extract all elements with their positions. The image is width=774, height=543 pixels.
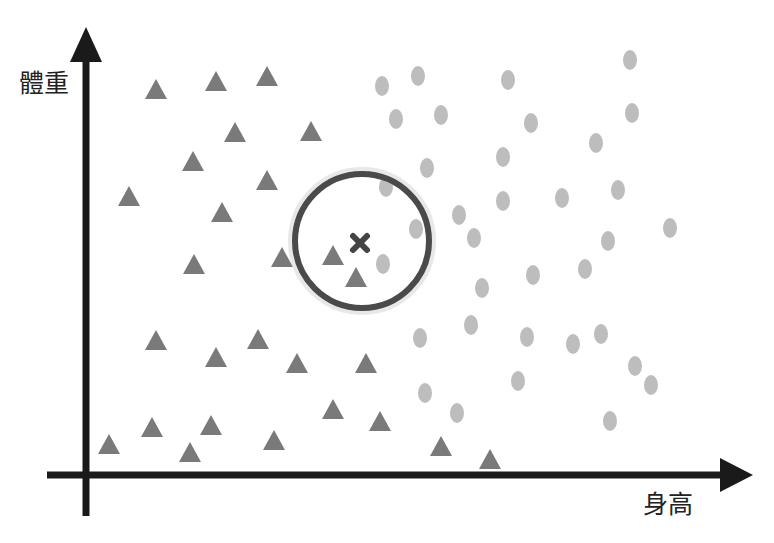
ellipse-marker-icon: [375, 76, 389, 96]
ellipse-marker-icon: [418, 383, 432, 403]
ellipse-marker-icon: [452, 205, 466, 225]
ellipse-marker-icon: [623, 50, 637, 70]
triangle-marker-icon: [118, 186, 140, 206]
ellipse-marker-icon: [496, 191, 510, 211]
ellipse-marker-icon: [555, 188, 569, 208]
triangle-marker-icon: [430, 436, 452, 456]
ellipse-marker-icon: [589, 133, 603, 153]
triangle-marker-icon: [263, 430, 285, 450]
triangle-marker-icon: [322, 399, 344, 419]
triangle-marker-icon: [205, 71, 227, 91]
ellipse-marker-icon: [594, 324, 608, 344]
triangle-marker-icon: [98, 434, 120, 454]
ellipse-marker-icon: [376, 254, 390, 274]
triangle-marker-icon: [369, 411, 391, 431]
triangle-marker-icon: [345, 267, 367, 287]
ellipse-marker-icon: [644, 375, 658, 395]
triangle-marker-icon: [479, 449, 501, 469]
triangle-marker-icon: [355, 353, 377, 373]
triangle-marker-icon: [182, 151, 204, 171]
triangle-marker-icon: [286, 353, 308, 373]
triangle-marker-icon: [179, 442, 201, 462]
ellipse-marker-icon: [496, 147, 510, 167]
ellipse-marker-icon: [663, 218, 677, 238]
ellipse-marker-icon: [601, 231, 615, 251]
triangle-marker-icon: [300, 121, 322, 141]
ellipse-marker-icon: [526, 265, 540, 285]
query-point-x-icon: [353, 236, 367, 250]
ellipse-marker-icon: [411, 66, 425, 86]
ellipse-marker-icon: [475, 278, 489, 298]
triangle-marker-icon: [205, 347, 227, 367]
knn-scatter-diagram: [0, 0, 774, 543]
y-axis-label: 體重: [19, 71, 69, 96]
ellipse-marker-icon: [628, 356, 642, 376]
ellipse-marker-icon: [434, 105, 448, 125]
ellipse-marker-icon: [420, 158, 434, 178]
triangle-marker-icon: [211, 202, 233, 222]
triangle-marker-icon: [256, 170, 278, 190]
ellipse-marker-icon: [409, 219, 423, 239]
triangle-marker-icon: [256, 66, 278, 86]
ellipse-points: [375, 50, 677, 431]
ellipse-marker-icon: [603, 411, 617, 431]
x-axis-label: 身高: [643, 492, 693, 517]
ellipse-marker-icon: [566, 334, 580, 354]
ellipse-marker-icon: [413, 328, 427, 348]
ellipse-marker-icon: [450, 403, 464, 423]
triangle-marker-icon: [200, 415, 222, 435]
ellipse-marker-icon: [520, 327, 534, 347]
ellipse-marker-icon: [625, 103, 639, 123]
triangle-marker-icon: [145, 330, 167, 350]
ellipse-marker-icon: [611, 180, 625, 200]
triangle-marker-icon: [224, 122, 246, 142]
ellipse-marker-icon: [467, 228, 481, 248]
axes: [47, 27, 753, 516]
triangle-marker-icon: [145, 79, 167, 99]
x-axis-arrow-icon: [720, 458, 753, 492]
ellipse-marker-icon: [501, 70, 515, 90]
triangle-marker-icon: [247, 329, 269, 349]
y-axis-arrow-icon: [70, 27, 102, 62]
ellipse-marker-icon: [578, 259, 592, 279]
triangle-marker-icon: [322, 245, 344, 265]
ellipse-marker-icon: [389, 109, 403, 129]
ellipse-marker-icon: [511, 371, 525, 391]
triangle-marker-icon: [141, 417, 163, 437]
ellipse-marker-icon: [524, 113, 538, 133]
ellipse-marker-icon: [464, 315, 478, 335]
triangle-marker-icon: [183, 254, 205, 274]
